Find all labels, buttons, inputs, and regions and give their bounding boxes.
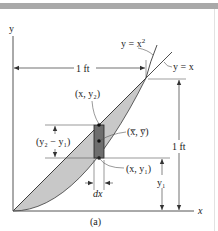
point-top-label: (x, y₂)	[75, 88, 100, 100]
line-leader	[164, 62, 172, 67]
parabola-leader	[138, 48, 153, 55]
point-centroid	[97, 139, 101, 143]
x-axis-label: x	[197, 205, 203, 216]
point-bottom-label: (x, y₁)	[126, 163, 151, 175]
line-equation-label: y = x	[173, 61, 194, 72]
element-height-label: (y₂ − y₁)	[36, 136, 70, 148]
parabola-equation-label: y = x2	[121, 37, 146, 49]
point-top-leader	[92, 101, 99, 124]
horizontal-dimension-label: 1 ft	[76, 63, 90, 74]
y1-label: y₁	[157, 177, 166, 188]
y-axis-label: y	[9, 23, 14, 34]
vertical-dimension-label: 1 ft	[172, 141, 186, 152]
point-bottom-leader	[100, 159, 124, 168]
point-centroid-label: (x̅, y̅)	[127, 126, 149, 138]
dx-label: dx	[93, 188, 103, 199]
figure-caption: (a)	[90, 216, 101, 228]
area-between-curves-diagram: y x 1 ft 1 ft y = x2 y = x (y₂ − y₁) (x,…	[0, 0, 218, 231]
